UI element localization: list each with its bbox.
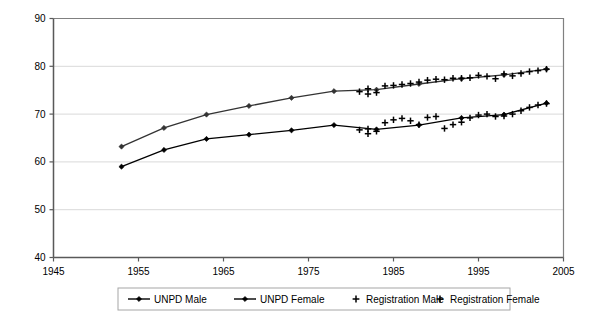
data-point-marker: [424, 114, 430, 120]
data-point-marker: [365, 91, 371, 97]
series-line: [122, 69, 547, 146]
series-unpd-male: [119, 101, 549, 170]
data-point-marker: [416, 121, 422, 127]
data-point-marker: [382, 120, 388, 126]
data-point-marker: [484, 73, 490, 79]
data-point-marker: [119, 164, 124, 169]
plot-gridlines: [54, 66, 564, 209]
x-axis-tick-label: 2005: [552, 266, 575, 277]
data-point-marker: [441, 125, 447, 131]
data-point-marker: [204, 136, 209, 141]
data-point-marker: [246, 132, 251, 137]
data-point-marker: [365, 130, 371, 136]
legend-label: UNPD Female: [260, 294, 325, 305]
data-point-marker: [331, 89, 336, 94]
data-point-marker: [289, 95, 294, 100]
data-point-marker: [518, 70, 524, 76]
data-point-marker: [543, 100, 549, 106]
legend-item-registration-male[interactable]: Registration Male: [353, 294, 445, 305]
data-point-marker: [458, 119, 464, 125]
y-axis-tick-label: 60: [34, 156, 46, 167]
data-point-marker: [535, 67, 541, 73]
x-axis-tick-label: 1945: [42, 266, 65, 277]
data-point-marker: [501, 71, 507, 77]
data-point-marker: [161, 125, 166, 130]
data-point-marker: [526, 104, 532, 110]
data-point-marker: [467, 75, 473, 81]
chart-container: 405060708090 194519551965197519851995200…: [0, 0, 613, 325]
x-axis-tick-label: 1995: [467, 266, 490, 277]
data-point-marker: [458, 75, 464, 81]
series-unpd-female: [119, 67, 549, 150]
series-line: [122, 103, 547, 167]
data-point-marker: [356, 88, 362, 94]
series-registration-female: [356, 66, 549, 97]
data-point-marker: [535, 102, 541, 108]
data-point-marker: [518, 108, 524, 114]
data-point-marker: [526, 68, 532, 74]
data-point-marker: [399, 115, 405, 121]
y-axis-tick-label: 40: [34, 252, 46, 263]
data-point-marker: [467, 115, 473, 121]
plot-border: [54, 19, 564, 258]
series-layer: [119, 66, 550, 169]
data-point-marker: [441, 76, 447, 82]
legend-item-registration-female[interactable]: Registration Female: [437, 294, 540, 305]
data-point-marker: [289, 128, 294, 133]
life-expectancy-line-chart: 405060708090 194519551965197519851995200…: [0, 0, 613, 325]
data-point-marker: [246, 103, 251, 108]
data-point-marker: [331, 122, 336, 127]
plot-frame: [54, 19, 564, 258]
data-point-marker: [543, 66, 549, 72]
x-axis-tick-labels: 1945195519651975198519952005: [42, 258, 575, 277]
chart-legend: UNPD MaleUNPD FemaleRegistration MaleReg…: [118, 288, 540, 310]
x-axis-tick-label: 1965: [212, 266, 235, 277]
legend-label: Registration Male: [366, 294, 444, 305]
data-point-marker: [204, 112, 209, 117]
y-axis-tick-labels: 405060708090: [34, 13, 53, 263]
series-registration-male: [356, 100, 549, 137]
x-axis-tick-label: 1955: [127, 266, 150, 277]
x-axis-tick-label: 1985: [382, 266, 405, 277]
x-axis-tick-label: 1975: [297, 266, 320, 277]
data-point-marker: [119, 144, 124, 149]
legend-label: Registration Female: [450, 294, 540, 305]
y-axis-tick-label: 70: [34, 109, 46, 120]
data-point-marker: [407, 118, 413, 124]
data-point-marker: [450, 121, 456, 127]
legend-label: UNPD Male: [154, 294, 207, 305]
y-axis-tick-label: 90: [34, 13, 46, 24]
y-axis-tick-label: 80: [34, 61, 46, 72]
y-axis-tick-label: 50: [34, 204, 46, 215]
data-point-marker: [161, 147, 166, 152]
data-point-marker: [390, 117, 396, 123]
